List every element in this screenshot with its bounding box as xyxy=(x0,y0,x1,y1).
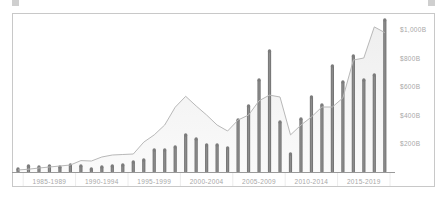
bar-cap xyxy=(100,165,103,168)
y-tick-label: $400B xyxy=(400,112,420,119)
bar-2010 xyxy=(289,154,292,172)
bar-cap xyxy=(289,152,292,155)
bar-2014 xyxy=(331,66,334,172)
y-tick-label: $200B xyxy=(400,140,420,147)
bar-cap xyxy=(268,49,271,52)
bar-cap xyxy=(299,117,302,120)
bar-2016 xyxy=(352,56,355,172)
y-tick-label: $1,000B xyxy=(400,26,426,33)
bar-cap xyxy=(205,143,208,146)
bar-2002 xyxy=(205,145,208,172)
x-axis-labels: 1985-19891990-19941995-19992000-20042005… xyxy=(33,178,381,185)
area-series xyxy=(18,27,385,172)
bar-cap xyxy=(79,164,82,167)
bar-cap xyxy=(111,164,114,167)
bar-cap xyxy=(257,78,260,81)
bar-cap xyxy=(278,120,281,123)
bar-cap xyxy=(320,103,323,106)
bar-2011 xyxy=(299,119,302,172)
bar-cap xyxy=(132,160,135,163)
y-tick-label: $600B xyxy=(400,83,420,90)
bar-cap xyxy=(153,148,156,151)
bar-2007 xyxy=(257,80,260,172)
x-group-label: 2000-2004 xyxy=(190,178,224,185)
bar-cap xyxy=(163,148,166,151)
bar-2004 xyxy=(226,148,229,172)
x-group-label: 2005-2009 xyxy=(242,178,276,185)
y-axis-labels: $200B$400B$600B$800B$1,000B xyxy=(400,26,426,147)
bar-cap xyxy=(184,133,187,136)
bar-cap xyxy=(194,137,197,140)
bar-2000 xyxy=(184,135,187,172)
x-group-label: 1990-1994 xyxy=(85,178,119,185)
bar-1997 xyxy=(153,150,156,172)
bar-2003 xyxy=(216,145,219,172)
x-group-label: 2010-2014 xyxy=(295,178,329,185)
bar-cap xyxy=(90,167,93,170)
y-tick-label: $800B xyxy=(400,55,420,62)
bar-cap xyxy=(121,163,124,166)
x-group-label: 2015-2019 xyxy=(347,178,381,185)
bar-1998 xyxy=(163,150,166,172)
bar-2001 xyxy=(195,139,198,172)
bar-cap xyxy=(310,95,313,98)
bar-cap xyxy=(373,73,376,76)
x-group-label: 1995-1999 xyxy=(137,178,171,185)
bar-2013 xyxy=(320,105,323,172)
bar-2005 xyxy=(236,120,239,172)
bar-line-chart: $200B$400B$600B$800B$1,000B 1985-1989199… xyxy=(0,0,446,206)
bar-cap xyxy=(341,80,344,83)
bar-cap xyxy=(174,145,177,148)
bar-cap xyxy=(215,143,218,146)
bar-2012 xyxy=(310,97,313,172)
bar-cap xyxy=(362,78,365,81)
bar-cap xyxy=(226,146,229,149)
bar-1996 xyxy=(142,160,145,172)
bar-1999 xyxy=(174,147,177,172)
bar-2009 xyxy=(278,122,281,172)
bar-cap xyxy=(331,64,334,67)
bar-cap xyxy=(27,164,30,167)
bar-2017 xyxy=(362,80,365,172)
bar-cap xyxy=(247,104,250,107)
bar-2008 xyxy=(268,51,271,172)
bar-cap xyxy=(142,158,145,161)
bar-2018 xyxy=(373,75,376,172)
bar-2019 xyxy=(383,20,386,172)
bar-cap xyxy=(383,18,386,21)
x-group-label: 1985-1989 xyxy=(33,178,67,185)
bar-cap xyxy=(352,54,355,57)
